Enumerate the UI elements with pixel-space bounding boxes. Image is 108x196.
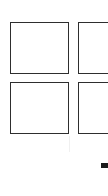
- dash-marker-icon: [101, 163, 108, 168]
- grid-tile-2[interactable]: [78, 22, 108, 74]
- grid-tile-3[interactable]: [10, 82, 69, 134]
- divider-line: [69, 136, 70, 152]
- grid-tile-4[interactable]: [78, 82, 108, 134]
- grid-tile-1[interactable]: [10, 22, 69, 74]
- tile-grid-view: [0, 0, 108, 196]
